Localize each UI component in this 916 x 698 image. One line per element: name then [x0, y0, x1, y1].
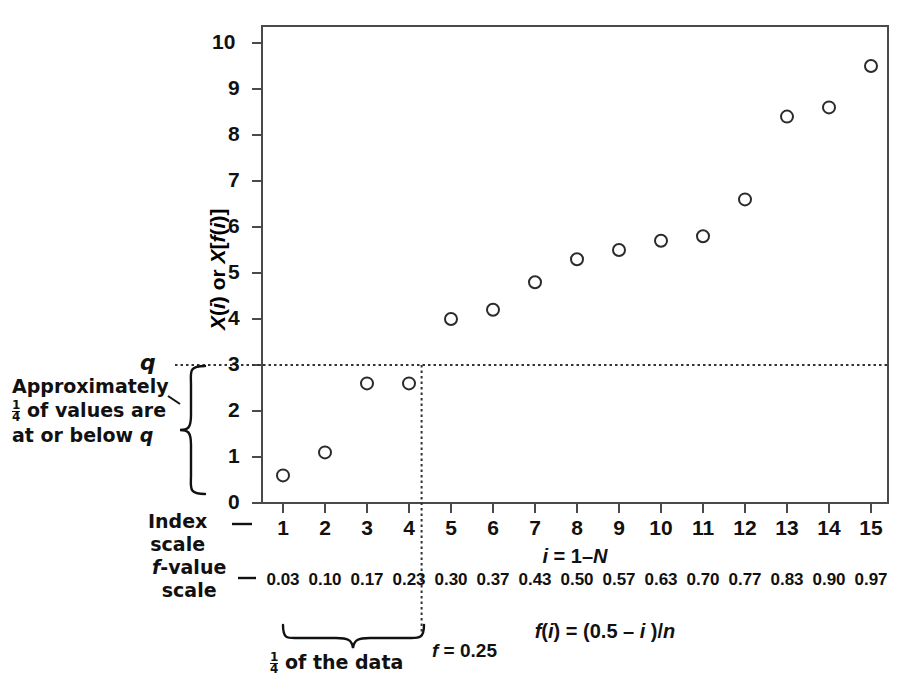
data-point	[655, 235, 667, 247]
f-tick-label: 0.83	[770, 570, 803, 590]
y-axis-ticks	[252, 43, 262, 503]
index-tick-label: 11	[692, 516, 714, 540]
data-point	[529, 276, 541, 288]
index-tick-label: 7	[529, 516, 541, 540]
index-scale-label: Index scale	[148, 510, 207, 556]
note-pointer	[168, 396, 180, 404]
f-tick-label: 0.90	[812, 570, 845, 590]
quarter-of-data-label: 14 of the data	[270, 650, 403, 675]
data-point	[823, 101, 835, 113]
f-tick-label: 0.23	[392, 570, 425, 590]
f-value-scale-label: f-value scale	[152, 556, 226, 602]
index-tick-label: 4	[403, 516, 415, 540]
data-point	[361, 377, 373, 389]
f-tick-label: 0.43	[518, 570, 551, 590]
data-point	[571, 253, 583, 265]
y-tick-label: 1	[228, 444, 240, 468]
index-tick-label: 15	[859, 516, 882, 540]
f-tick-label: 0.57	[602, 570, 635, 590]
data-point	[319, 446, 331, 458]
y-tick-label: 9	[228, 76, 240, 100]
index-tick-label: 8	[571, 516, 583, 540]
y-tick-label: 10	[212, 30, 235, 54]
y-tick-label: 0	[228, 490, 240, 514]
left-brace	[180, 366, 205, 494]
bottom-brace	[283, 625, 424, 648]
x-axis-ticks	[283, 503, 871, 513]
index-tick-label: 5	[445, 516, 457, 540]
index-tick-label: 3	[361, 516, 373, 540]
y-tick-label: 8	[228, 122, 240, 146]
f-cut-label: f = 0.25	[432, 640, 497, 662]
data-point	[613, 244, 625, 256]
f-tick-label: 0.03	[266, 570, 299, 590]
quantile-guide-lines	[175, 365, 888, 632]
index-scale-label-line1: Index	[148, 510, 207, 533]
data-point	[697, 230, 709, 242]
x-axis-label-formula: f(i) = (0.5 – i )/n	[535, 620, 676, 643]
f-scale-label-line2: scale	[152, 579, 226, 602]
index-tick-label: 1	[277, 516, 289, 540]
index-tick-label: 14	[817, 516, 840, 540]
data-point	[865, 60, 877, 72]
data-point	[487, 304, 499, 316]
f-tick-label: 0.30	[434, 570, 467, 590]
index-tick-label: 2	[319, 516, 331, 540]
f-tick-label: 0.10	[308, 570, 341, 590]
scale-label-dashes	[232, 524, 256, 578]
data-point	[445, 313, 457, 325]
data-points	[277, 60, 877, 481]
scatter-plot-canvas	[0, 0, 916, 698]
y-tick-label: 2	[228, 398, 240, 422]
data-point	[403, 377, 415, 389]
f-tick-label: 0.70	[686, 570, 719, 590]
data-point	[739, 193, 751, 205]
f-tick-label: 0.97	[854, 570, 887, 590]
y-tick-label: 7	[228, 168, 240, 192]
index-tick-label: 9	[613, 516, 625, 540]
index-tick-label: 13	[775, 516, 798, 540]
y-axis-label: X(i) or X[f(i)]	[206, 209, 230, 330]
index-tick-label: 12	[733, 516, 756, 540]
y-tick-label: 3	[228, 352, 240, 376]
f-tick-label: 0.50	[560, 570, 593, 590]
f-tick-label: 0.63	[644, 570, 677, 590]
f-tick-label: 0.77	[728, 570, 761, 590]
quantile-note-line3: at or below q	[12, 423, 169, 447]
x-axis-label-index: i = 1–N	[542, 545, 607, 568]
data-point	[277, 469, 289, 481]
f-tick-label: 0.17	[350, 570, 383, 590]
f-tick-label: 0.37	[476, 570, 509, 590]
figure-root: 10 9 8 7 6 5 4 3 2 1 0 X(i) or X[f(i)] q…	[0, 0, 916, 698]
index-tick-label: 10	[649, 516, 672, 540]
quantile-note-line2: 14 of values are	[12, 398, 169, 423]
data-point	[781, 111, 793, 123]
quantile-q-label: q	[140, 351, 156, 375]
index-tick-label: 6	[487, 516, 499, 540]
quantile-note-line1: Approximately	[12, 374, 169, 398]
index-scale-label-line2: scale	[148, 533, 207, 556]
quantile-note: Approximately 14 of values are at or bel…	[12, 374, 169, 447]
